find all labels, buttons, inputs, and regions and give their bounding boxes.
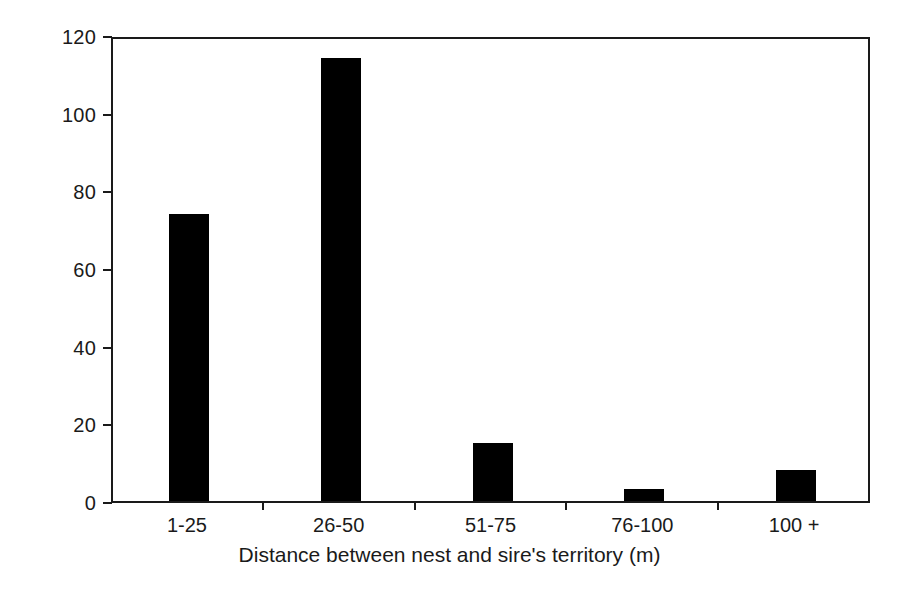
- bar-1-25: [169, 214, 209, 501]
- bar-26-50: [321, 58, 361, 501]
- y-axis-tick-label-40: 40: [38, 338, 96, 358]
- chart-figure: Frequency 020406080100120 1-2526-5051-75…: [0, 0, 899, 590]
- y-axis-tick-label-80: 80: [38, 182, 96, 202]
- bar-51-75: [473, 443, 513, 501]
- y-axis-tick-label-100: 100: [38, 105, 96, 125]
- plot-area: [111, 37, 870, 503]
- x-axis-tick-3: [717, 503, 719, 510]
- x-axis-tick-label-2: 51-75: [465, 513, 516, 537]
- y-axis-tick-label-0: 0: [38, 493, 96, 513]
- x-axis-tick-label-1: 26-50: [313, 513, 364, 537]
- x-axis-tick-0: [262, 503, 264, 510]
- x-axis-tick-1: [414, 503, 416, 510]
- x-axis-tick-2: [565, 503, 567, 510]
- y-axis-tick-labels: 020406080100120: [38, 0, 96, 590]
- x-axis-title: Distance between nest and sire's territo…: [0, 542, 899, 567]
- x-axis-tick-label-0: 1-25: [167, 513, 207, 537]
- bar-76-100: [624, 489, 664, 501]
- y-axis-tick-label-120: 120: [38, 27, 96, 47]
- x-axis-tick-label-3: 76-100: [611, 513, 673, 537]
- y-axis-tick-label-20: 20: [38, 415, 96, 435]
- bar-100-: [776, 470, 816, 501]
- y-axis-tick-label-60: 60: [38, 260, 96, 280]
- x-axis-tick-label-4: 100 +: [769, 513, 820, 537]
